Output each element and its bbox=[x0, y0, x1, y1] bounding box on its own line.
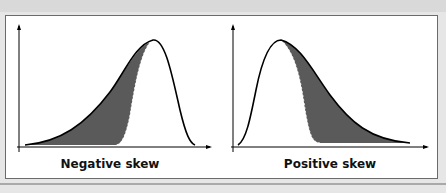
positive-skew-plot bbox=[231, 24, 429, 152]
negative-skew-caption: Negative skew bbox=[55, 157, 165, 171]
negative-skew-plot bbox=[17, 24, 212, 152]
positive-skew-caption: Positive skew bbox=[275, 157, 385, 171]
